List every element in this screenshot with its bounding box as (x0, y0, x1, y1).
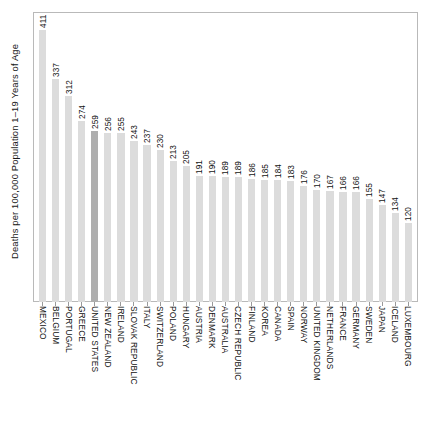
x-axis-category-label[interactable]: SWITZERLAND (155, 306, 165, 367)
x-axis-category-label[interactable]: IRELAND (116, 306, 126, 343)
bar[interactable] (52, 79, 59, 302)
x-axis-category-label[interactable]: GERMANY (351, 306, 361, 349)
bar[interactable] (352, 192, 359, 302)
x-axis-category-label[interactable]: JAPAN (377, 306, 387, 333)
bar-slot: 147 (376, 12, 389, 302)
bar-slot: 134 (389, 12, 402, 302)
bar[interactable] (379, 205, 386, 302)
bar-slot: 167 (323, 12, 336, 302)
bar[interactable] (300, 186, 307, 302)
x-axis-category-label[interactable]: LUXEMBOURG (403, 306, 413, 367)
bar-value-label: 166 (338, 176, 347, 190)
x-axis-category-slot: NEW ZEALAND (101, 306, 114, 430)
bar[interactable] (170, 161, 177, 302)
bar[interactable] (222, 177, 229, 302)
x-axis-category-label[interactable]: BELGIUM (51, 306, 61, 344)
x-axis-category-slot: ICELAND (389, 306, 402, 430)
bar-value-label: 147 (378, 189, 387, 203)
x-axis-category-label[interactable]: NORWAY (299, 306, 309, 343)
bar[interactable] (392, 213, 399, 302)
bar[interactable] (104, 133, 111, 302)
x-axis-category-label[interactable]: GREECE (77, 306, 87, 342)
bar[interactable] (117, 133, 124, 302)
x-axis-category-slot: ITALY (141, 306, 154, 430)
x-axis-category-slot: AUSTRIA (193, 306, 206, 430)
bar[interactable] (248, 179, 255, 302)
x-axis-category-slot: FINLAND (245, 306, 258, 430)
x-axis-category-slot: FRANCE (336, 306, 349, 430)
bar-slot: 170 (310, 12, 323, 302)
bar-slot: 337 (49, 12, 62, 302)
bar-value-label: 205 (182, 150, 191, 164)
bar-value-label: 190 (208, 160, 217, 174)
x-axis-category-label[interactable]: AUSTRIA (194, 306, 204, 343)
x-axis-category-label[interactable]: DENMARK (207, 306, 217, 349)
x-axis-category-label[interactable]: AUSTRALIA (220, 306, 230, 353)
bar-value-label: 186 (247, 163, 256, 177)
bar[interactable] (287, 181, 294, 302)
x-axis-category-slot: KOREA (258, 306, 271, 430)
bar-value-label: 230 (156, 134, 165, 148)
x-axis-category-label[interactable]: FRANCE (338, 306, 348, 341)
x-axis-category-label[interactable]: NETHERLANDS (325, 306, 335, 369)
bar-slot: 176 (297, 12, 310, 302)
bar-value-label: 243 (129, 125, 138, 139)
y-axis-title-text: Deaths per 100,000 Population 1–19 Years… (10, 43, 21, 258)
bar[interactable] (183, 166, 190, 302)
x-axis-category-label[interactable]: HUNGARY (181, 306, 191, 348)
bar-slot: 205 (180, 12, 193, 302)
bar[interactable] (235, 177, 242, 302)
x-axis-category-slot: GREECE (75, 306, 88, 430)
bar[interactable] (91, 131, 98, 302)
bar[interactable] (274, 180, 281, 302)
bar-value-label: 411 (38, 15, 47, 28)
bar[interactable] (65, 96, 72, 302)
x-axis-category-label[interactable]: CANADA (273, 306, 283, 342)
x-axis-category-label[interactable]: KOREA (260, 306, 270, 336)
bar-slot: 185 (258, 12, 271, 302)
bar[interactable] (130, 141, 137, 302)
x-axis-category-slot: SWITZERLAND (154, 306, 167, 430)
bar[interactable] (261, 180, 268, 302)
x-axis-category-slot: NORWAY (297, 306, 310, 430)
x-axis-category-label[interactable]: ICELAND (390, 306, 400, 343)
x-axis-category-label[interactable]: FINLAND (247, 306, 257, 343)
x-axis-category-label[interactable]: NEW ZEALAND (103, 306, 113, 368)
bar-slot: 120 (402, 12, 415, 302)
bar[interactable] (339, 192, 346, 302)
x-axis-category-label[interactable]: POLAND (168, 306, 178, 341)
x-axis-category-label[interactable]: UNITED STATES (90, 306, 100, 372)
bar-value-label: 184 (273, 164, 282, 178)
bar-value-label: 337 (51, 63, 60, 77)
x-axis-category-slot: SPAIN (284, 306, 297, 430)
bar-value-label: 176 (299, 170, 308, 184)
y-axis-title: Deaths per 100,000 Population 1–19 Years… (0, 0, 30, 302)
x-axis-category-slot: NETHERLANDS (323, 306, 336, 430)
x-axis-category-label[interactable]: SWEDEN (364, 306, 374, 343)
bar-value-label: 256 (103, 117, 112, 131)
x-axis-category-label[interactable]: CZECH REPUBLIC (233, 306, 243, 380)
x-axis-category-slot: SLOVAK REPUBLIC (127, 306, 140, 430)
bar[interactable] (366, 199, 373, 302)
bar-value-label: 166 (352, 176, 361, 190)
bar-slot: 191 (193, 12, 206, 302)
x-axis-category-label[interactable]: SPAIN (286, 306, 296, 331)
bar-slot: 184 (271, 12, 284, 302)
bar[interactable] (78, 121, 85, 302)
x-axis-category-slot: CZECH REPUBLIC (232, 306, 245, 430)
bar[interactable] (326, 191, 333, 302)
bar[interactable] (313, 190, 320, 303)
bar-slot: 166 (350, 12, 363, 302)
bar[interactable] (157, 150, 164, 302)
x-axis-category-label[interactable]: SLOVAK REPUBLIC (129, 306, 139, 385)
bar[interactable] (143, 145, 150, 302)
bar[interactable] (196, 176, 203, 302)
x-axis-category-label[interactable]: UNITED KINGDOM (312, 306, 322, 381)
bar[interactable] (209, 176, 216, 302)
x-axis-category-label[interactable]: MEXICO (38, 306, 48, 340)
x-axis-category-label[interactable]: ITALY (142, 306, 152, 329)
bar[interactable] (39, 30, 46, 302)
x-axis-category-label[interactable]: PORTUGAL (64, 306, 74, 353)
bar[interactable] (405, 223, 412, 302)
bar-value-label: 134 (391, 197, 400, 211)
